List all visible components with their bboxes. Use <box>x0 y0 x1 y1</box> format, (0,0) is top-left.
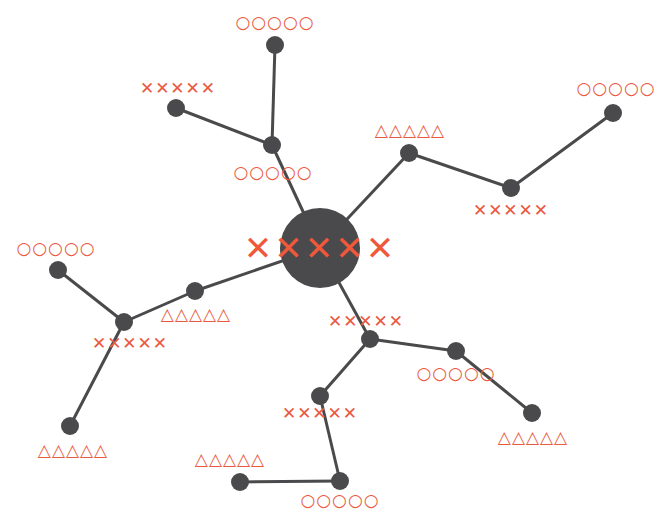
edge <box>176 108 272 145</box>
node-label: △△△△△ <box>161 306 231 323</box>
node-label: △△△△△ <box>38 442 108 459</box>
node-label: △△△△△ <box>498 429 568 446</box>
node <box>361 330 379 348</box>
node-label: ✕✕✕✕✕ <box>282 405 358 422</box>
node-label: ○○○○○ <box>235 14 314 31</box>
edge <box>58 270 124 322</box>
node <box>447 342 465 360</box>
node <box>49 261 67 279</box>
node-label: ○○○○○ <box>576 80 655 97</box>
node-label: ○○○○○ <box>233 164 312 181</box>
center-label: ✕✕✕✕✕ <box>244 231 396 265</box>
node-label: ○○○○○ <box>416 365 495 382</box>
node <box>331 472 349 490</box>
edge <box>370 339 456 351</box>
edge <box>240 481 340 482</box>
node <box>115 313 133 331</box>
node-label: ○○○○○ <box>300 492 379 509</box>
node <box>61 417 79 435</box>
edge <box>272 45 275 145</box>
edge <box>320 339 370 396</box>
edge <box>409 153 511 188</box>
node-label: ○○○○○ <box>16 240 95 257</box>
node-label: ✕✕✕✕✕ <box>140 80 216 97</box>
node <box>400 144 418 162</box>
node-label: △△△△△ <box>195 451 265 468</box>
node <box>263 136 281 154</box>
node-label: ✕✕✕✕✕ <box>328 313 404 330</box>
node-label: ✕✕✕✕✕ <box>92 335 168 352</box>
node <box>266 36 284 54</box>
edge <box>511 113 613 188</box>
node-label: △△△△△ <box>375 122 445 139</box>
node <box>523 404 541 422</box>
node <box>167 99 185 117</box>
node <box>502 179 520 197</box>
node <box>186 282 204 300</box>
node-label: ✕✕✕✕✕ <box>473 202 549 219</box>
node <box>604 104 622 122</box>
node <box>231 473 249 491</box>
